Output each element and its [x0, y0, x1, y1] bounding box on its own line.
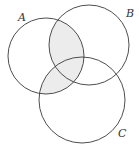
- shaded-region: [39, 5, 129, 143]
- label-b: B: [125, 7, 134, 20]
- circle-c: [39, 57, 125, 143]
- venn-diagram: A B C: [0, 0, 139, 149]
- label-a: A: [17, 11, 26, 24]
- label-c: C: [118, 127, 127, 140]
